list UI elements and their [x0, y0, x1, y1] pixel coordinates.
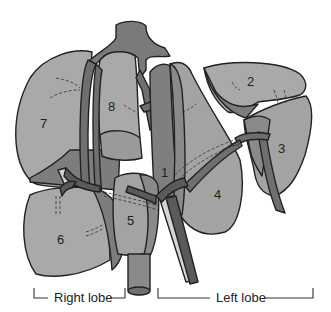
segment-6	[24, 187, 125, 276]
segment-label-3: 3	[278, 141, 285, 156]
segment-label-2: 2	[247, 74, 254, 89]
inferior-vena-cava-lower	[128, 254, 150, 295]
left-lobe-label: Left lobe	[216, 290, 266, 305]
segment-label-7: 7	[40, 116, 47, 131]
right-lobe-label: Right lobe	[54, 290, 113, 305]
liver-segments-diagram: 1 2 3 4 5 6 7 8 Right lobe Left lobe	[0, 0, 331, 312]
segment-label-5: 5	[127, 213, 134, 228]
segment-8	[98, 51, 142, 160]
segment-label-6: 6	[57, 232, 64, 247]
segment-5	[113, 173, 159, 256]
segment-label-1: 1	[161, 165, 168, 180]
segment-label-8: 8	[108, 99, 115, 114]
segment-label-4: 4	[214, 187, 221, 202]
